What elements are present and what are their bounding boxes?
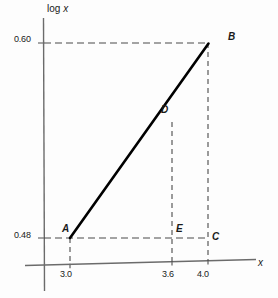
x-tick-label-36: 3.6 xyxy=(162,270,174,279)
y-axis-title-variable: x xyxy=(63,3,68,14)
point-label-b: B xyxy=(228,32,235,42)
y-axis-title: log x xyxy=(47,4,68,14)
x-axis-title: x xyxy=(258,258,263,268)
x-tick-label-30: 3.0 xyxy=(60,270,72,279)
y-axis-line xyxy=(44,18,45,291)
point-label-e: E xyxy=(176,224,183,234)
chord-line-ab xyxy=(70,44,209,239)
plot-canvas xyxy=(0,0,278,298)
x-axis-line xyxy=(25,260,256,266)
point-label-a: A xyxy=(62,224,69,234)
linear-interpolation-figure: log x 0.60 0.48 3.0 3.6 4.0 x A B C D E xyxy=(0,0,278,298)
point-label-d: D xyxy=(161,105,168,115)
point-label-c: C xyxy=(212,232,219,242)
y-tick-label-048: 0.48 xyxy=(14,231,31,240)
x-tick-label-40: 4.0 xyxy=(197,270,209,279)
y-tick-label-060: 0.60 xyxy=(14,35,31,44)
x-axis-title-variable: x xyxy=(258,257,263,268)
y-axis-title-prefix: log xyxy=(47,3,63,14)
